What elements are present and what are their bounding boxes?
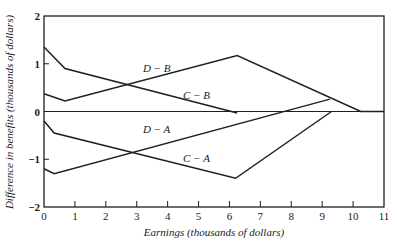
x-tick-label: 10 — [348, 210, 360, 222]
series-line — [44, 112, 332, 179]
y-tick-label: 2 — [35, 10, 41, 22]
x-tick-label: 2 — [103, 210, 109, 222]
y-tick-label: 0 — [35, 106, 41, 118]
y-tick-label: −2 — [28, 201, 40, 213]
x-axis-title: Earnings (thousands of dollars) — [143, 226, 285, 239]
y-axis-title: Difference in benefits (thousands of dol… — [3, 15, 16, 211]
series-line — [44, 47, 237, 113]
series-lines — [44, 47, 384, 178]
series-line — [44, 56, 384, 112]
y-tick-label: −1 — [28, 153, 40, 165]
y-tick-label: 1 — [35, 58, 41, 70]
x-tick-label: 5 — [196, 210, 202, 222]
x-tick-label: 1 — [72, 210, 78, 222]
x-tick-label: 4 — [165, 210, 171, 222]
x-axis-ticks: 01234567891011 — [41, 201, 389, 222]
series-label: C − A — [183, 152, 210, 164]
series-label: C − B — [183, 89, 210, 101]
x-tick-label: 9 — [319, 210, 325, 222]
chart: 01234567891011 −2−1012 D − BC − BD − AC … — [0, 0, 397, 243]
series-label: D − B — [142, 62, 171, 74]
x-tick-label: 8 — [289, 210, 295, 222]
series-label: D − A — [142, 123, 171, 135]
y-axis-ticks: −2−1012 — [28, 10, 49, 213]
x-tick-label: 7 — [258, 210, 264, 222]
x-tick-label: 3 — [134, 210, 140, 222]
x-tick-label: 11 — [379, 210, 390, 222]
x-tick-label: 0 — [41, 210, 47, 222]
x-tick-label: 6 — [227, 210, 233, 222]
